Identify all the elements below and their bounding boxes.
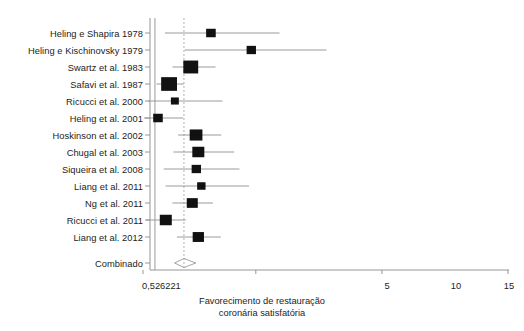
summary-diamond	[175, 259, 196, 268]
effect-size-marker	[183, 61, 198, 74]
effect-size-marker	[190, 129, 203, 140]
forest-plot-canvas	[0, 0, 524, 331]
forest-row	[166, 182, 249, 190]
effect-size-marker	[197, 182, 205, 190]
effect-size-marker	[161, 77, 177, 91]
forest-row	[156, 77, 183, 91]
forest-row	[146, 215, 186, 226]
forest-row	[177, 232, 221, 242]
effect-size-marker	[193, 232, 204, 242]
forest-row	[165, 29, 279, 38]
forest-plot: Heling e Shapira 1978 Heling e Kischinov…	[0, 0, 524, 331]
x-tick-label: 15	[504, 281, 514, 291]
effect-size-marker	[192, 165, 201, 173]
effect-size-marker	[171, 97, 179, 104]
x-tick-label: 5	[384, 281, 389, 291]
effect-size-marker	[153, 114, 163, 123]
forest-row	[148, 97, 223, 104]
effect-size-marker	[160, 215, 172, 226]
forest-row	[173, 61, 216, 74]
x-tick-label: 0,526221	[142, 281, 181, 291]
effect-size-marker	[187, 198, 198, 208]
forest-row	[164, 165, 240, 173]
forest-row	[185, 46, 327, 54]
effect-size-marker	[192, 147, 204, 158]
x-axis-caption-line2: coronária satisfatória	[0, 308, 524, 320]
x-axis-caption-line1: Favorecimento de restauração	[0, 296, 524, 308]
forest-row	[173, 147, 234, 158]
effect-size-marker	[206, 29, 216, 38]
x-tick-label: 10	[451, 281, 461, 291]
forest-row	[178, 129, 221, 140]
x-axis-caption: Favorecimento de restauração coronária s…	[0, 296, 524, 319]
forest-row	[172, 198, 213, 208]
effect-size-marker	[247, 46, 256, 54]
